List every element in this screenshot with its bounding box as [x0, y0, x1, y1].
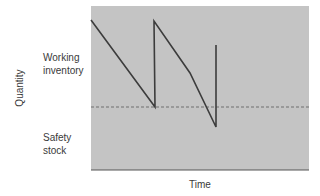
working-inventory-label: Working inventory: [43, 51, 84, 77]
safety-stock-label: Safety stock: [43, 131, 71, 157]
inventory-chart: [0, 0, 320, 196]
safety-stock-line1: Safety: [43, 131, 71, 144]
plot-area: [91, 6, 309, 170]
working-inventory-line1: Working: [43, 51, 84, 64]
y-axis-label: Quantity: [14, 69, 25, 106]
safety-stock-line2: stock: [43, 144, 71, 157]
x-axis-label: Time: [189, 179, 211, 190]
working-inventory-line2: inventory: [43, 64, 84, 77]
